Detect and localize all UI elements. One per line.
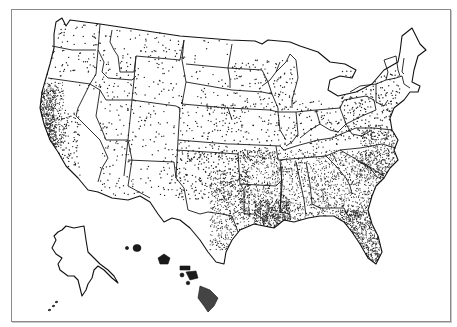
island-niihau [125, 246, 128, 249]
hawaii-inset [125, 245, 218, 313]
island-kauai [133, 245, 141, 252]
island-lanai [180, 273, 184, 277]
density-dots [40, 24, 401, 262]
us-dot-density-map [0, 0, 457, 327]
island-maui [186, 271, 198, 280]
alaska-outline [52, 226, 118, 296]
island-oahu [158, 254, 170, 264]
aleutian-islands [48, 301, 58, 311]
island-molokai [180, 266, 190, 270]
state-borders [48, 24, 410, 232]
island-hawaii [198, 286, 218, 312]
island-kahoolawe [186, 281, 190, 285]
contiguous-us-outline [40, 18, 426, 264]
alaska-inset [48, 226, 118, 311]
